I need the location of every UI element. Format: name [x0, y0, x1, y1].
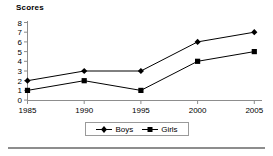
bottom-divider [8, 147, 265, 149]
x-tick-label-1990: 1990 [75, 106, 93, 115]
x-axis-ticks [28, 101, 255, 105]
y-tick-label-1: 1 [18, 86, 23, 95]
y-tick-label-0: 0 [18, 96, 23, 105]
data-point-boys-2005 [251, 29, 257, 35]
square-marker-icon [142, 125, 158, 134]
data-point-girls-1995 [138, 88, 143, 93]
diamond-marker-icon [96, 125, 112, 134]
chart-legend: Boys Girls [85, 122, 189, 136]
data-point-girls-2000 [195, 59, 200, 64]
legend-label-girls: Girls [161, 125, 177, 134]
data-point-girls-1990 [82, 78, 87, 83]
data-point-girls-1985 [25, 88, 30, 93]
data-point-boys-1990 [81, 68, 87, 74]
data-point-boys-1985 [24, 78, 30, 84]
y-tick-label-8: 8 [18, 19, 23, 28]
x-tick-label-2000: 2000 [189, 106, 207, 115]
x-tick-label-1995: 1995 [132, 106, 150, 115]
x-tick-label-1985: 1985 [19, 106, 37, 115]
y-tick-label-6: 6 [18, 38, 23, 47]
y-tick-label-4: 4 [18, 57, 23, 66]
chart-figure: Scores 8 7 6 5 4 3 2 1 0 [0, 0, 273, 156]
data-point-boys-2000 [195, 39, 201, 45]
y-tick-label-5: 5 [18, 48, 23, 57]
x-tick-label-2005: 2005 [245, 106, 263, 115]
data-point-boys-1995 [138, 68, 144, 74]
y-tick-label-7: 7 [18, 28, 23, 37]
legend-entry-boys: Boys [96, 125, 133, 134]
y-tick-label-3: 3 [18, 67, 23, 76]
data-point-girls-2005 [252, 49, 257, 54]
y-tick-label-2: 2 [18, 77, 23, 86]
legend-label-boys: Boys [115, 125, 133, 134]
legend-entry-girls: Girls [142, 125, 177, 134]
